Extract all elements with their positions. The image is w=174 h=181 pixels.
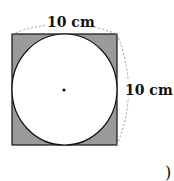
square-circle-diagram: 10 cm 10 cm ) xyxy=(0,0,174,181)
center-dot xyxy=(62,88,65,91)
answer-parenthesis: ) xyxy=(165,163,171,181)
top-length-label: 10 cm xyxy=(47,14,95,30)
right-length-label: 10 cm xyxy=(125,82,173,98)
